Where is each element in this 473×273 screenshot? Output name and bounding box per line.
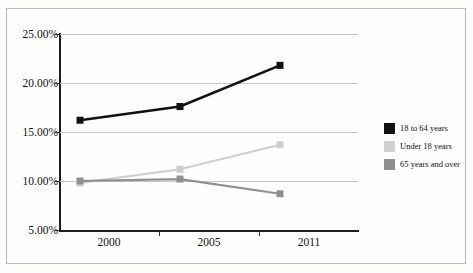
data-point-marker: [277, 141, 284, 148]
legend-item[interactable]: 65 years and over: [384, 156, 464, 172]
series-line: [80, 65, 280, 120]
legend-label: 18 to 64 years: [400, 123, 448, 133]
y-tick-label: 25.00%: [6, 28, 58, 40]
y-axis-labels: 25.00% 20.00% 15.00% 10.00% 5.00%: [0, 0, 58, 273]
legend-label: Under 18 years: [400, 141, 452, 151]
x-tick-label: 2005: [179, 236, 239, 248]
legend-label: 65 years and over: [400, 159, 460, 169]
data-point-marker: [277, 62, 284, 69]
data-point-marker: [177, 166, 184, 173]
legend-swatch-icon: [384, 159, 395, 170]
chart-figure: 25.00% 20.00% 15.00% 10.00% 5.00% 2000 2…: [0, 0, 473, 273]
y-tick-label: 10.00%: [6, 175, 58, 187]
data-point-marker: [77, 117, 84, 124]
x-tick-mark: [259, 231, 260, 236]
x-axis-line: [59, 230, 359, 232]
chart-legend: 18 to 64 years Under 18 years 65 years a…: [384, 120, 464, 174]
data-point-marker: [277, 190, 284, 197]
x-tick-label: 2000: [79, 236, 139, 248]
y-tick-label: 15.00%: [6, 126, 58, 138]
x-tick-mark: [159, 231, 160, 236]
y-tick-label: 20.00%: [6, 77, 58, 89]
legend-item[interactable]: Under 18 years: [384, 138, 464, 154]
legend-swatch-icon: [384, 141, 395, 152]
series-plot: [60, 34, 358, 230]
x-tick-label: 2011: [279, 236, 339, 248]
data-point-marker: [177, 103, 184, 110]
plot-area: [60, 34, 358, 230]
data-point-marker: [77, 178, 84, 185]
legend-item[interactable]: 18 to 64 years: [384, 120, 464, 136]
y-tick-label: 5.00%: [6, 224, 58, 236]
data-point-marker: [177, 176, 184, 183]
legend-swatch-icon: [384, 123, 395, 134]
